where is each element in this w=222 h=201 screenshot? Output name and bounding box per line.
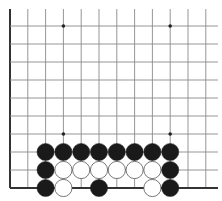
black-stone[interactable] [37,161,54,178]
black-stone[interactable] [108,143,125,160]
star-point [62,132,66,136]
black-stone[interactable] [37,179,54,196]
black-stone[interactable] [144,143,161,160]
black-stone[interactable] [126,143,143,160]
black-stone[interactable] [162,161,179,178]
black-stone[interactable] [90,179,107,196]
white-stone[interactable] [126,161,143,178]
white-stone[interactable] [73,161,90,178]
white-stone[interactable] [108,161,125,178]
white-stone[interactable] [55,161,72,178]
white-stone[interactable] [144,161,161,178]
black-stone[interactable] [90,143,107,160]
star-point [168,132,172,136]
white-stone[interactable] [90,161,107,178]
board-grid [10,9,218,188]
black-stone[interactable] [73,143,90,160]
white-stone[interactable] [55,179,72,196]
black-stone[interactable] [162,143,179,160]
star-point [62,24,66,28]
black-stone[interactable] [162,179,179,196]
black-stone[interactable] [37,143,54,160]
white-stone[interactable] [144,179,161,196]
star-point [168,24,172,28]
go-board[interactable] [0,0,222,201]
black-stone[interactable] [55,143,72,160]
